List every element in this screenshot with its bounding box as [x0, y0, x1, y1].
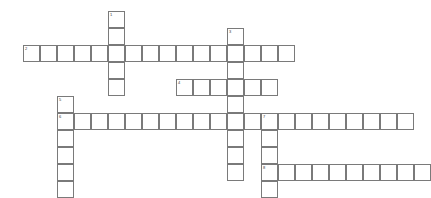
crossword-cell[interactable] [108, 62, 125, 79]
crossword-cell[interactable] [142, 45, 159, 62]
clue-number-4: 4 [178, 80, 180, 85]
crossword-cell[interactable] [159, 113, 176, 130]
crossword-cell[interactable] [74, 45, 91, 62]
crossword-cell[interactable] [57, 181, 74, 198]
crossword-cell[interactable] [244, 113, 261, 130]
crossword-cell[interactable] [227, 96, 244, 113]
crossword-cell[interactable] [108, 79, 125, 96]
crossword-cell[interactable] [261, 45, 278, 62]
crossword-cell[interactable] [159, 45, 176, 62]
crossword-cell-start-4[interactable]: 4 [176, 79, 193, 96]
crossword-cell[interactable] [227, 164, 244, 181]
crossword-cell[interactable] [210, 113, 227, 130]
crossword-cell[interactable] [74, 113, 91, 130]
crossword-cell[interactable] [57, 45, 74, 62]
crossword-cell[interactable] [295, 164, 312, 181]
crossword-cell[interactable] [57, 164, 74, 181]
crossword-cell[interactable] [227, 130, 244, 147]
crossword-cell[interactable] [312, 113, 329, 130]
clue-number-6: 6 [59, 114, 61, 119]
crossword-cell[interactable] [363, 164, 380, 181]
crossword-cell[interactable] [295, 113, 312, 130]
crossword-cell[interactable] [210, 79, 227, 96]
crossword-cell[interactable] [91, 45, 108, 62]
crossword-cell-start-6[interactable]: 6 [57, 113, 74, 130]
crossword-cell[interactable] [261, 147, 278, 164]
crossword-cell[interactable] [108, 45, 125, 62]
crossword-cell[interactable] [414, 164, 431, 181]
crossword-cell[interactable] [380, 113, 397, 130]
crossword-cell[interactable] [125, 45, 142, 62]
crossword-cell[interactable] [176, 113, 193, 130]
crossword-cell[interactable] [346, 113, 363, 130]
crossword-cell[interactable] [244, 79, 261, 96]
crossword-cell[interactable] [397, 164, 414, 181]
crossword-cell[interactable] [261, 79, 278, 96]
crossword-cell[interactable] [329, 113, 346, 130]
crossword-cell[interactable] [227, 147, 244, 164]
crossword-cell[interactable] [261, 181, 278, 198]
crossword-cell[interactable] [108, 113, 125, 130]
crossword-cell[interactable] [176, 45, 193, 62]
crossword-cell[interactable] [397, 113, 414, 130]
crossword-cell[interactable] [125, 113, 142, 130]
crossword-cell[interactable] [57, 147, 74, 164]
crossword-cell[interactable] [193, 79, 210, 96]
crossword-cell[interactable] [346, 164, 363, 181]
clue-number-5: 5 [59, 97, 61, 102]
crossword-cell[interactable] [227, 79, 244, 96]
clue-number-2: 2 [25, 46, 27, 51]
crossword-cell-start-1[interactable]: 1 [108, 11, 125, 28]
crossword-cell[interactable] [278, 45, 295, 62]
crossword-cell[interactable] [278, 113, 295, 130]
crossword-cell[interactable] [193, 45, 210, 62]
crossword-cell[interactable] [40, 45, 57, 62]
crossword-cell[interactable] [91, 113, 108, 130]
clue-number-7: 7 [263, 114, 265, 119]
clue-number-3: 3 [229, 29, 231, 34]
crossword-cell[interactable] [108, 28, 125, 45]
crossword-cell[interactable] [193, 113, 210, 130]
crossword-cell-start-5[interactable]: 5 [57, 96, 74, 113]
clue-number-8: 8 [263, 165, 265, 170]
crossword-cell-start-8[interactable]: 8 [261, 164, 278, 181]
crossword-cell[interactable] [142, 113, 159, 130]
crossword-cell[interactable] [227, 113, 244, 130]
crossword-cell[interactable] [57, 130, 74, 147]
crossword-cell-start-3[interactable]: 3 [227, 28, 244, 45]
crossword-cell[interactable] [312, 164, 329, 181]
crossword-cell-start-2[interactable]: 2 [23, 45, 40, 62]
crossword-cell[interactable] [244, 45, 261, 62]
crossword-cell[interactable] [227, 62, 244, 79]
crossword-cell[interactable] [329, 164, 346, 181]
crossword-cell-start-7[interactable]: 7 [261, 113, 278, 130]
crossword-cell[interactable] [363, 113, 380, 130]
crossword-cell[interactable] [210, 45, 227, 62]
crossword-cell[interactable] [278, 164, 295, 181]
crossword-cell[interactable] [227, 45, 244, 62]
clue-number-1: 1 [110, 12, 112, 17]
crossword-cell[interactable] [380, 164, 397, 181]
crossword-cell[interactable] [261, 130, 278, 147]
